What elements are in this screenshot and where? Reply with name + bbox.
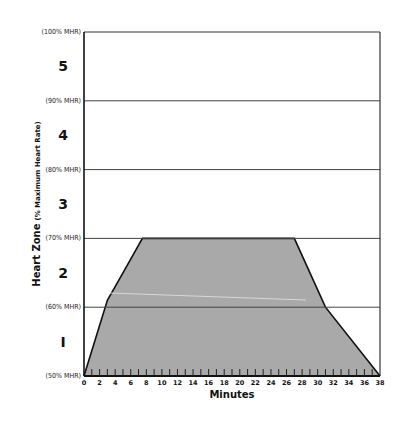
mhr-label: (70% MHR)	[46, 234, 81, 242]
x-tick-label: 18	[220, 379, 230, 387]
x-tick-label: 28	[298, 379, 308, 387]
mhr-label: (80% MHR)	[46, 166, 81, 174]
zone-label: I	[60, 334, 65, 350]
mhr-label: (50% MHR)	[46, 372, 81, 380]
x-tick-label: 22	[251, 379, 260, 387]
x-tick-label: 38	[375, 379, 385, 387]
mhr-label: (90% MHR)	[46, 97, 81, 105]
x-tick-label: 6	[128, 379, 133, 387]
x-tick-label: 26	[282, 379, 292, 387]
mhr-label: (60% MHR)	[46, 303, 81, 311]
x-tick-label: 4	[113, 379, 118, 387]
y-axis-title: Heart Zone(% Maximum Heart Rate)	[31, 121, 42, 286]
y-axis-title-main: Heart Zone	[31, 223, 42, 286]
zone-label: 4	[58, 127, 68, 143]
x-tick-label: 10	[157, 379, 167, 387]
x-tick-label: 24	[266, 379, 276, 387]
x-tick-label: 32	[329, 379, 338, 387]
x-tick-label: 2	[97, 379, 102, 387]
mhr-label: (100% MHR)	[42, 28, 81, 36]
x-axis-title: Minutes	[209, 389, 254, 400]
x-tick-label: 20	[235, 379, 245, 387]
x-tick-label: 34	[344, 379, 354, 387]
x-tick-label: 0	[82, 379, 87, 387]
x-tick-label: 30	[313, 379, 323, 387]
x-tick-label: 12	[173, 379, 182, 387]
x-tick-label: 36	[360, 379, 370, 387]
x-tick-label: 14	[189, 379, 199, 387]
zone-label: 5	[58, 58, 68, 74]
heart-zone-chart: (100% MHR)(90% MHR)(80% MHR)(70% MHR)(60…	[0, 0, 399, 425]
zone-label: 2	[58, 265, 68, 281]
x-tick-label: 8	[144, 379, 149, 387]
y-axis-title-sub: (% Maximum Heart Rate)	[34, 121, 42, 220]
x-tick-label: 16	[204, 379, 214, 387]
zone-label: 3	[58, 196, 68, 212]
